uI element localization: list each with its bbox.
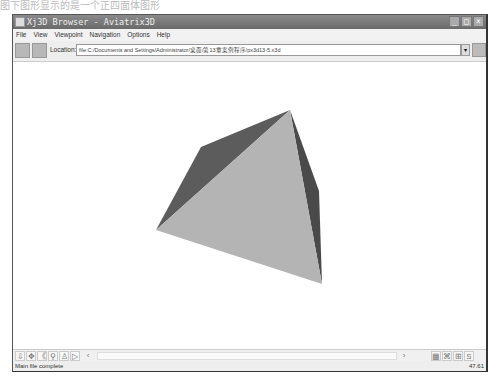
fps-readout: 47.61 [469, 361, 484, 371]
menu-bar: File View Viewpoint Navigation Options H… [13, 29, 486, 41]
walk-icon[interactable]: ⚲ [48, 351, 58, 361]
minimize-button[interactable]: _ [449, 16, 460, 27]
screenshot-icon[interactable]: S [464, 351, 474, 361]
page-caption: 图下图形显示的是一个正四面体图形 [0, 0, 500, 13]
scroll-left-icon[interactable]: ‹ [83, 351, 93, 361]
fly-icon[interactable]: ♙ [59, 351, 69, 361]
status-bar: Main file complete 47.61 [13, 361, 486, 371]
maximize-button[interactable]: □ [461, 16, 472, 27]
title-bar[interactable]: Xj3D Browser - Aviatrix3D _ □ × [13, 15, 486, 29]
location-input[interactable]: file:C:/Documents and Settings/Administr… [76, 44, 461, 56]
3d-viewport[interactable] [13, 62, 486, 349]
grid-icon[interactable]: ⊞ [453, 351, 463, 361]
status-message: Main file complete [15, 361, 63, 371]
window-title: Xj3D Browser - Aviatrix3D [27, 17, 155, 27]
tilt-icon[interactable]: 《 [37, 351, 47, 361]
close-button[interactable]: × [473, 16, 484, 27]
examine-icon[interactable]: ⇩ [15, 351, 25, 361]
browser-window: Xj3D Browser - Aviatrix3D _ □ × File Vie… [12, 14, 488, 372]
app-icon [15, 17, 25, 27]
menu-help[interactable]: Help [157, 29, 170, 41]
binoculars-icon[interactable]: ⌘ [442, 351, 452, 361]
fit-icon[interactable]: ▦ [431, 351, 441, 361]
reload-button[interactable] [32, 43, 47, 58]
viewpoint-slider[interactable] [97, 352, 397, 360]
location-dropdown-button[interactable]: ▾ [461, 44, 470, 56]
menu-navigation[interactable]: Navigation [90, 29, 121, 41]
go-button[interactable] [472, 43, 486, 57]
location-label: Location: [50, 46, 76, 53]
scroll-right-icon[interactable]: › [399, 351, 409, 361]
toolbar: Location: file:C:/Documents and Settings… [13, 41, 486, 62]
tetrahedron-shape [13, 62, 487, 349]
play-icon[interactable]: ▷ [70, 351, 80, 361]
back-button[interactable] [15, 43, 30, 58]
pan-icon[interactable]: ✥ [26, 351, 36, 361]
menu-file[interactable]: File [16, 29, 26, 41]
menu-options[interactable]: Options [127, 29, 149, 41]
menu-view[interactable]: View [33, 29, 47, 41]
menu-viewpoint[interactable]: Viewpoint [54, 29, 82, 41]
